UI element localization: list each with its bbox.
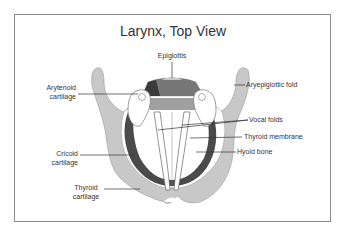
label-cricoid-line2: cartilage xyxy=(38,159,78,167)
label-epiglottis: Epiglottis xyxy=(150,52,194,60)
arytenoid-left-knob xyxy=(139,94,146,101)
epiglottis-light-band xyxy=(146,98,200,110)
label-thyroid-membrane: Thyroid membrane xyxy=(244,133,303,141)
label-hyoid-bone: Hyoid bone xyxy=(237,148,272,156)
label-aryepiglottic-fold: Aryepiglottic fold xyxy=(246,81,297,89)
label-arytenoid-line2: cartilage xyxy=(34,93,76,101)
arytenoid-right-knob xyxy=(199,94,206,101)
larynx-illustration xyxy=(0,0,346,239)
label-thyroid-line2: cartilage xyxy=(68,193,104,201)
label-arytenoid-line1: Arytenoid xyxy=(34,84,76,92)
label-thyroid-line1: Thyroid xyxy=(68,184,104,192)
label-vocal-folds: Vocal folds xyxy=(249,116,283,124)
label-cricoid-line1: Cricoid xyxy=(38,150,78,158)
